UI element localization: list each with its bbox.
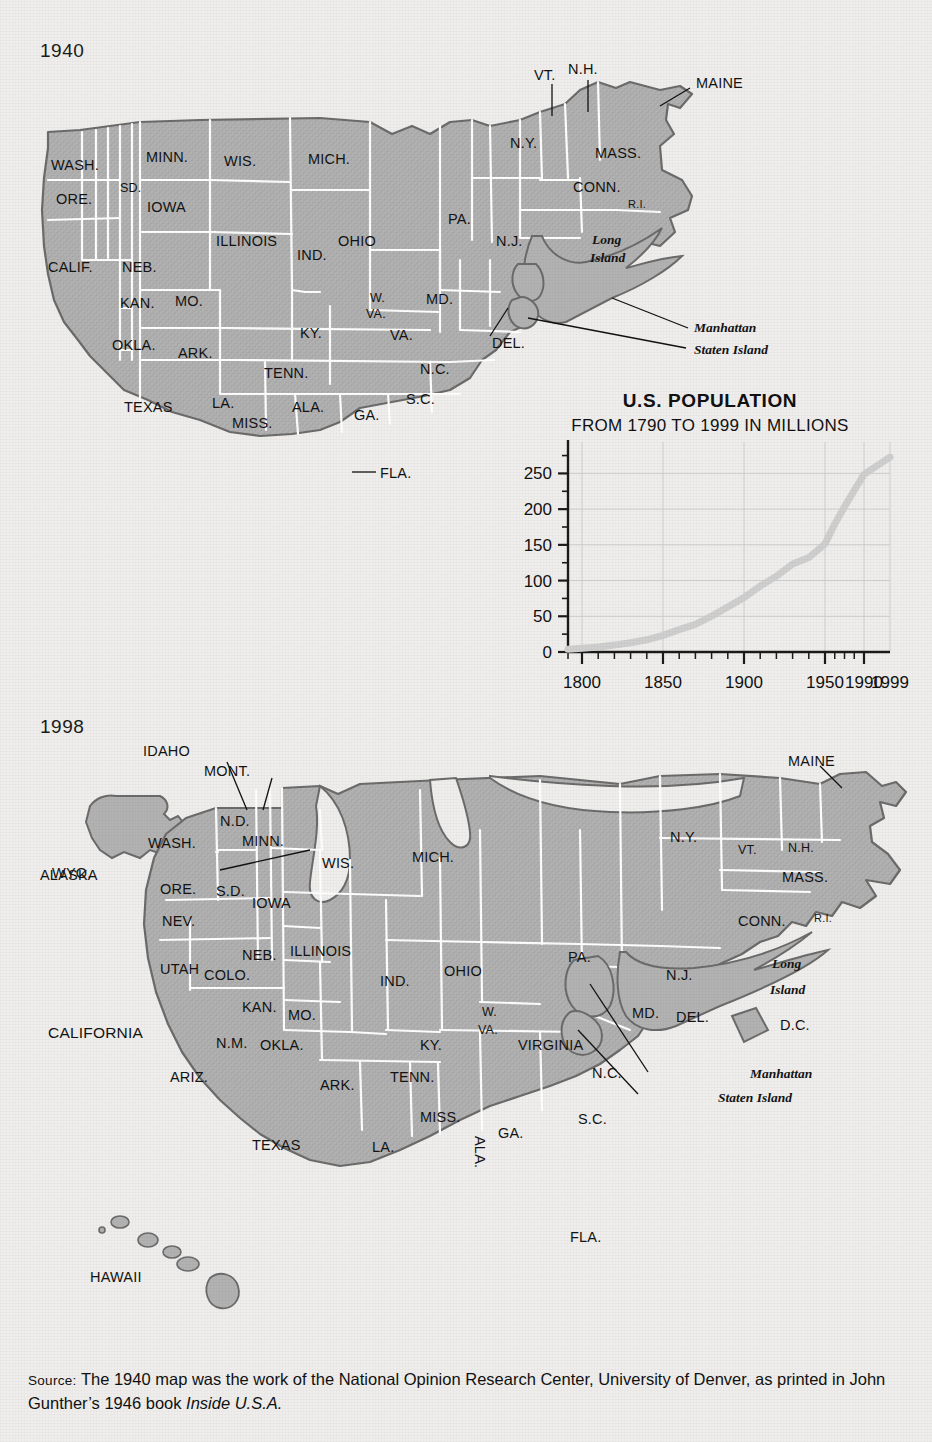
label-md-1998: MD.	[632, 1005, 659, 1021]
label-nc-1998: N.C.	[592, 1065, 622, 1081]
label-fla-1940: FLA.	[380, 465, 411, 481]
label-illinois-1940: ILLINOIS	[216, 233, 277, 249]
label-ny-1940: N.Y.	[510, 135, 537, 151]
label-miss-1998: MISS.	[420, 1109, 460, 1125]
label-long-island-1940-line1: Long	[591, 232, 622, 247]
svg-text:1800: 1800	[563, 673, 601, 690]
label-ore-1998: ORE.	[160, 881, 196, 897]
label-long-island-1998-line1: Long	[771, 956, 802, 971]
label-ri-1940: R.I.	[628, 198, 646, 210]
label-ala-1940: ALA.	[292, 399, 324, 415]
label-conn-1998: CONN.	[738, 913, 786, 929]
svg-text:200: 200	[524, 500, 552, 519]
label-ny-1998: N.Y.	[670, 829, 697, 845]
svg-text:0: 0	[543, 643, 552, 662]
label-long-island-1998-line2: Island	[769, 982, 806, 997]
label-la-1998: LA.	[372, 1139, 394, 1155]
label-mass-1998: MASS.	[782, 869, 828, 885]
label-maine-1940: MAINE	[696, 75, 743, 91]
label-wis-1940: WIS.	[224, 153, 256, 169]
label-wyo-1998: WYO.	[52, 865, 91, 881]
label-ky-1940: KY.	[300, 325, 322, 341]
page-root: 1940	[0, 0, 932, 1442]
chart-y-ticks	[558, 456, 568, 652]
label-pa-1998: PA.	[568, 949, 591, 965]
label-long-island-1940-line2: Island	[589, 250, 626, 265]
label-md-1940: MD.	[426, 291, 453, 307]
label-nev-1998: NEV.	[162, 913, 195, 929]
label-kan-1998: KAN.	[242, 999, 277, 1015]
chart-x-ticks	[568, 652, 864, 664]
label-mo-1998: MO.	[288, 1007, 316, 1023]
label-maine-1998: MAINE	[788, 753, 835, 769]
label-manhattan-1940: Manhattan	[693, 320, 756, 335]
label-ga-1998: GA.	[498, 1125, 524, 1141]
label-nj-1998: N.J.	[666, 967, 693, 983]
label-ohio-1998: OHIO	[444, 963, 482, 979]
label-hawaii-1998: HAWAII	[90, 1269, 142, 1285]
label-ky-1998: KY.	[420, 1037, 442, 1053]
label-nh-1940: N.H.	[568, 61, 598, 77]
population-chart: U.S. POPULATION FROM 1790 TO 1999 IN MIL…	[500, 390, 920, 690]
label-mich-1940: MICH.	[308, 151, 350, 167]
label-manhattan-1998: Manhattan	[749, 1066, 812, 1081]
label-pa-1940: PA.	[448, 211, 471, 227]
label-mich-1998: MICH.	[412, 849, 454, 865]
label-vt-1998: VT.	[738, 843, 757, 857]
svg-text:50: 50	[533, 607, 552, 626]
chart-title: U.S. POPULATION	[500, 390, 920, 412]
label-iowa-1940: IOWA	[147, 199, 186, 215]
label-va-1940: VA.	[390, 327, 413, 343]
map-1998-dc-shape	[732, 1008, 768, 1042]
source-label: Source:	[28, 1373, 77, 1388]
label-texas-1998: TEXAS	[252, 1137, 301, 1153]
source-caption: Source: The 1940 map was the work of the…	[28, 1368, 908, 1416]
label-iowa-1998: IOWA	[252, 895, 291, 911]
label-del-1998: DEL.	[676, 1009, 709, 1025]
label-vt-1940: VT.	[534, 67, 556, 83]
label-ariz-1998: ARIZ.	[170, 1069, 208, 1085]
label-wva-1940-line1: W.	[370, 291, 385, 305]
map-1998-hawaii-shapes	[99, 1216, 239, 1308]
label-ark-1998: ARK.	[320, 1077, 355, 1093]
label-nm-1998: N.M.	[216, 1035, 247, 1051]
map-1940-year-label: 1940	[40, 40, 84, 62]
label-staten-island-1998: Staten Island	[718, 1090, 792, 1105]
svg-text:1850: 1850	[644, 673, 682, 690]
svg-text:1900: 1900	[725, 673, 763, 690]
label-ore-1940: ORE.	[56, 191, 92, 207]
label-wash-1940: WASH.	[51, 157, 99, 173]
label-ga-1940: GA.	[354, 407, 380, 423]
label-neb-1940: NEB.	[122, 259, 157, 275]
label-sd-1998: S.D.	[216, 883, 245, 899]
label-mo-1940: MO.	[175, 293, 203, 309]
label-minn-1940: MINN.	[146, 149, 188, 165]
label-miss-1940: MISS.	[232, 415, 272, 431]
label-sc-1940: S.C.	[406, 391, 435, 407]
svg-text:100: 100	[524, 572, 552, 591]
label-california-1998: CALIFORNIA	[48, 1024, 143, 1041]
label-okla-1940: OKLA.	[112, 337, 156, 353]
label-sc-1998: S.C.	[578, 1111, 607, 1127]
svg-text:1950: 1950	[806, 673, 844, 690]
label-la-1940: LA.	[212, 395, 234, 411]
label-mont-1998: MONT.	[204, 763, 250, 779]
label-sd-1940: SD.	[120, 181, 141, 195]
label-ohio-1940: OHIO	[338, 233, 376, 249]
label-fla-1998: FLA.	[570, 1229, 601, 1245]
label-nc-1940: N.C.	[420, 361, 450, 377]
label-calif-1940: CALIF.	[48, 259, 93, 275]
label-ind-1998: IND.	[380, 973, 410, 989]
label-neb-1998: NEB.	[242, 947, 277, 963]
label-texas-1940: TEXAS	[124, 399, 173, 415]
label-wis-1998: WIS.	[322, 855, 354, 871]
label-nh-1998: N.H.	[788, 841, 814, 855]
label-tenn-1940: TENN.	[264, 365, 309, 381]
label-ala-1998: ALA.	[472, 1136, 488, 1168]
chart-data-line	[568, 457, 890, 649]
cartogram-map-1998: ALASKA HAWAII WASH. ORE. CALIFORNIA NEV.…	[20, 730, 920, 1330]
source-book-title: Inside U.S.A.	[186, 1394, 282, 1412]
label-idaho-1998: IDAHO	[143, 743, 190, 759]
label-dc-1998: D.C.	[780, 1017, 810, 1033]
chart-gridlines	[568, 442, 890, 652]
